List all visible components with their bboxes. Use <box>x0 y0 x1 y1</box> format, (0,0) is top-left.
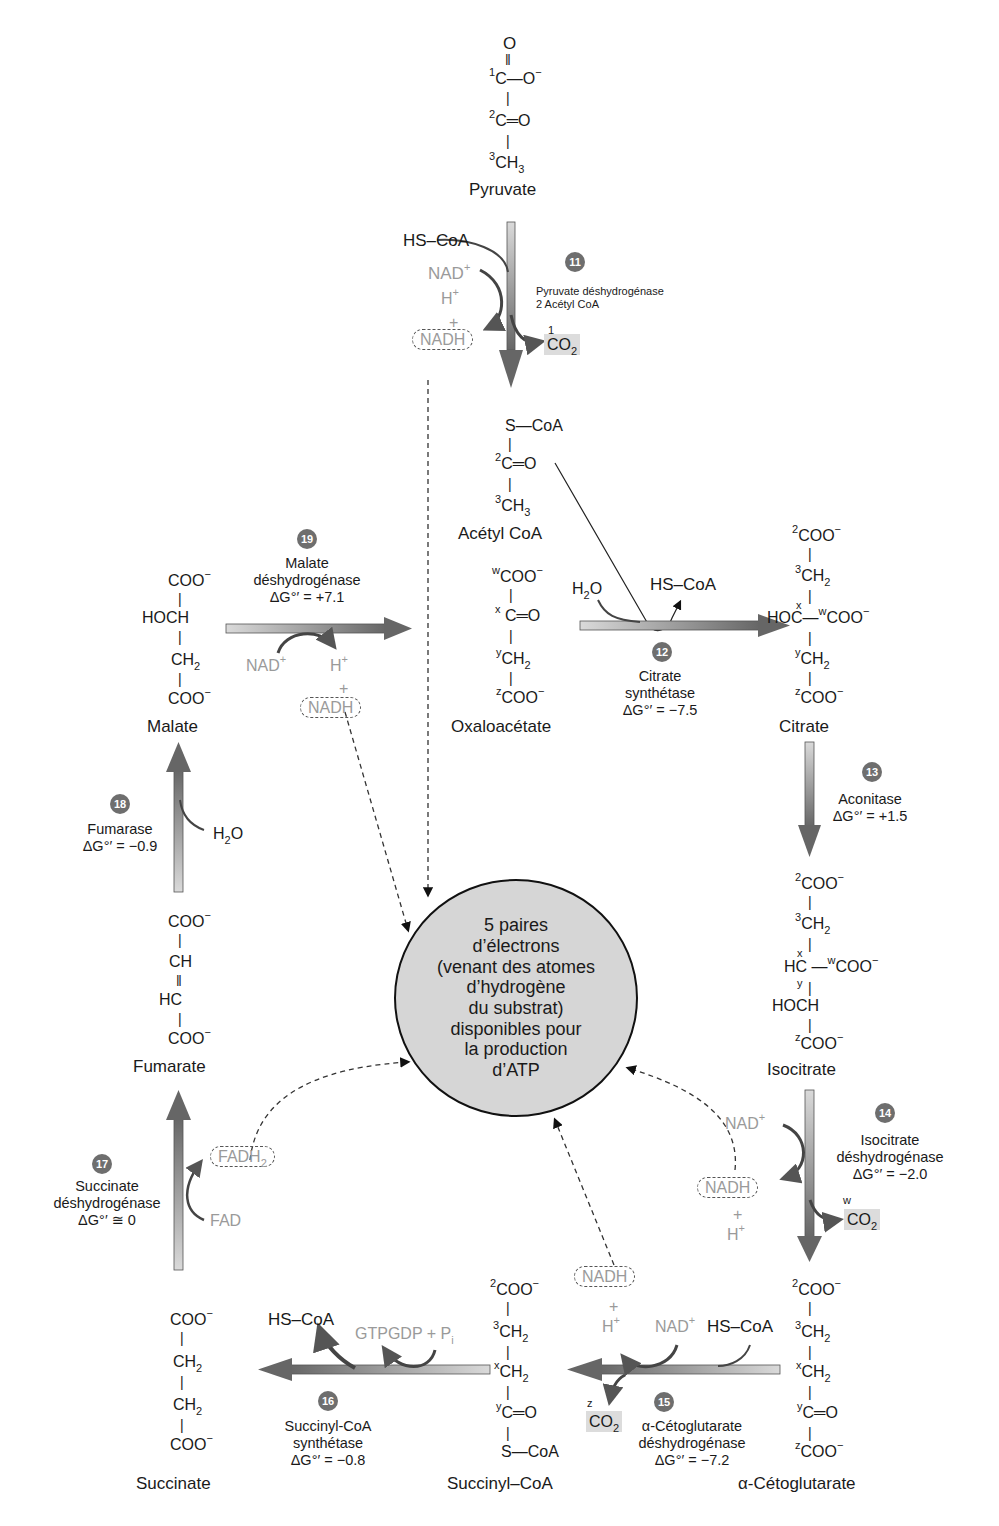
isocitrate-hoch: HOCH <box>772 997 819 1015</box>
succinate-coo-2: COO− <box>170 1436 213 1454</box>
double-bond: ‖ <box>176 973 182 989</box>
step-badge-14: 14 <box>875 1103 895 1123</box>
akg-ch2-3: 3CH2 <box>795 1323 830 1341</box>
isocitrate-label-y: y <box>797 978 803 989</box>
hs-coa-input-11: HS–CoA <box>403 232 469 249</box>
step-badge-11: 11 <box>565 252 585 272</box>
plus-19: + <box>339 680 348 698</box>
h-output-15: H+ <box>602 1318 620 1336</box>
isocitrate-coo-z: zCOO− <box>795 1035 843 1053</box>
fumarate-coo-2: COO− <box>168 1030 211 1048</box>
fumarate-ch: CH <box>169 953 192 971</box>
bond: | <box>808 980 812 996</box>
nad-input-15: NAD+ <box>655 1318 695 1336</box>
arrow-step-12 <box>580 600 790 637</box>
enzyme-label-12: CitratesynthétaseΔG°′ = −7.5 <box>605 668 715 719</box>
bond: | <box>509 587 513 603</box>
citrate-hoc-x: HOC—wCOO− <box>767 609 869 627</box>
arrow-step-19 <box>226 617 412 653</box>
bond: | <box>808 546 812 562</box>
h-output-19: H+ <box>330 657 348 675</box>
malate-coo-1: COO− <box>168 572 211 590</box>
nadh-15: NADH <box>574 1268 635 1286</box>
nadh-19: NADH <box>300 699 361 717</box>
fumarate-name: Fumarate <box>133 1058 206 1075</box>
akg-ch2-x: xCH2 <box>796 1363 831 1381</box>
bond: | <box>178 591 182 607</box>
gtp-gdp-16: GTPGDP + Pi <box>355 1325 454 1343</box>
enzyme-label-13: AconitaseΔG°′ = +1.5 <box>820 791 920 825</box>
enzyme-label-17: SuccinatedéshydrogénaseΔG°′ ≅ 0 <box>38 1178 176 1229</box>
bond: | <box>808 630 812 646</box>
succcoa-s-coa: S—CoA <box>501 1443 559 1461</box>
bond: | <box>808 1344 812 1360</box>
acetyl-c3: 3CH3 <box>495 497 530 515</box>
center-line: 5 paires <box>437 915 595 936</box>
hs-coa-output-16: HS–CoA <box>268 1311 334 1328</box>
nad-input-19: NAD+ <box>246 657 286 675</box>
bond: | <box>178 1011 182 1027</box>
fadh2-17: FADH2 <box>210 1148 275 1166</box>
succcoa-c-y: yC═O <box>496 1404 537 1422</box>
bond: | <box>808 936 812 952</box>
malate-hoch: HOCH <box>142 609 189 627</box>
center-line: d’hydrogène <box>437 977 595 998</box>
alpha-cetoglutarate-name: α-Cétoglutarate <box>738 1475 856 1492</box>
bond: | <box>808 588 812 604</box>
co2-carbon-label-14: w <box>843 1195 851 1206</box>
succinate-coo-1: COO− <box>170 1311 213 1329</box>
bond: | <box>506 90 510 106</box>
arrow-step-18 <box>166 742 204 892</box>
isocitrate-hc-x: HC —wCOO− <box>784 958 878 976</box>
isocitrate-label-x: x <box>797 948 803 959</box>
step-badge-15: 15 <box>654 1392 674 1412</box>
nad-input-11: NAD+ <box>428 264 470 284</box>
co2-carbon-label-15: z <box>587 1398 593 1409</box>
pyruvate-atom-o: O <box>503 34 516 54</box>
bond: | <box>506 133 510 149</box>
citrate-coo-z: zCOO− <box>795 689 843 707</box>
electron-flow-lines <box>250 380 735 1265</box>
succinate-name: Succinate <box>136 1475 211 1492</box>
malate-ch2: CH2 <box>171 651 200 669</box>
enzyme-label-15: α-CétoglutaratedéshydrogénaseΔG°′ = −7.2 <box>622 1418 762 1469</box>
step-badge-18: 18 <box>110 794 130 814</box>
center-line: la production <box>437 1039 595 1060</box>
enzyme-label-18: FumaraseΔG°′ = −0.9 <box>70 821 170 855</box>
citrate-ch2-y: yCH2 <box>795 650 830 668</box>
center-line: (venant des atomes <box>437 957 595 978</box>
fad-input-17: FAD <box>210 1212 241 1230</box>
akg-coo-z: zCOO− <box>795 1443 843 1461</box>
enzyme-label-19: MalatedéshydrogénaseΔG°′ = +7.1 <box>240 555 374 606</box>
pyruvate-c1: 1C—O− <box>489 70 542 88</box>
co2-output-15: CO2 <box>586 1413 622 1431</box>
krebs-cycle-diagram: O ‖ 1C—O− | 2C═O | 3CH3 Pyruvate HS–CoA … <box>0 0 999 1526</box>
pyruvate-c3: 3CH3 <box>489 154 524 172</box>
h2o-input-18: H2O <box>213 825 243 843</box>
co2-output-11: CO2 <box>544 336 580 354</box>
bond: | <box>506 1384 510 1400</box>
hs-coa-input-15: HS–CoA <box>707 1318 773 1335</box>
enzyme-label-14: IsocitratedéshydrogénaseΔG°′ = −2.0 <box>820 1132 960 1183</box>
bond: | <box>808 894 812 910</box>
isocitrate-coo-2: 2COO− <box>795 875 844 893</box>
bond: | <box>506 1344 510 1360</box>
pyruvate-c2: 2C═O <box>489 112 530 130</box>
acetyl-c2: 2C═O <box>495 455 536 473</box>
citrate-name: Citrate <box>779 718 829 735</box>
nadh-11: NADH <box>412 331 473 349</box>
step-badge-12: 12 <box>652 642 672 662</box>
bond: | <box>180 1330 184 1346</box>
nadh-14: NADH <box>697 1179 758 1197</box>
bond: | <box>508 436 512 452</box>
bond: | <box>506 1300 510 1316</box>
oxaloacetate-name: Oxaloacétate <box>451 718 551 735</box>
succcoa-coo-2: 2COO− <box>490 1281 539 1299</box>
h-output-14: H+ <box>727 1226 745 1244</box>
center-line: disponibles pour <box>437 1019 595 1040</box>
bond: | <box>808 1384 812 1400</box>
malate-coo-2: COO− <box>168 690 211 708</box>
bond: | <box>808 1425 812 1441</box>
center-line: d’ATP <box>437 1060 595 1081</box>
succinate-ch2-2: CH2 <box>173 1396 202 1414</box>
